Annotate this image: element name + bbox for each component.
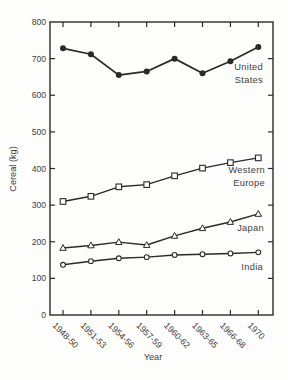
marker-western-europe [172,173,178,179]
y-tick-label: 100 [32,273,47,283]
marker-india [172,253,177,258]
series-label-line: Western [228,165,265,175]
marker-india [61,262,66,267]
marker-united-states [60,45,66,51]
marker-united-states [200,70,206,76]
y-tick-label: 800 [32,17,47,27]
marker-united-states [88,51,94,57]
marker-india [228,251,233,256]
y-axis-title: Cereal (kg) [8,146,18,191]
marker-united-states [227,58,233,64]
series-label-line: Europe [233,178,265,188]
y-tick-label: 400 [32,164,47,174]
marker-india [89,259,94,264]
marker-india [144,255,149,260]
marker-united-states [144,68,150,74]
marker-western-europe [88,194,94,200]
marker-united-states [255,44,261,50]
marker-western-europe [200,165,206,171]
series-label-line: India [241,262,263,272]
chart-svg: 01002003004005006007008001948-501951-531… [0,0,288,380]
y-tick-label: 0 [41,310,46,320]
marker-western-europe [256,155,262,161]
y-tick-label: 200 [32,237,47,247]
cereal-line-chart: 01002003004005006007008001948-501951-531… [0,0,288,380]
marker-western-europe [60,199,66,205]
series-label-line: United [234,62,263,72]
y-tick-label: 700 [32,54,47,64]
series-label-japan: Japan [237,223,264,233]
x-axis-title: Year [144,352,163,362]
marker-united-states [116,72,122,78]
marker-western-europe [144,182,150,188]
marker-western-europe [116,184,122,190]
y-tick-label: 500 [32,127,47,137]
marker-india [256,250,261,255]
marker-india [200,252,205,257]
y-tick-label: 300 [32,200,47,210]
series-label-line: Japan [237,223,264,233]
series-label-line: States [235,75,263,85]
cereal-consumption-figure: 01002003004005006007008001948-501951-531… [0,0,288,380]
series-label-india: India [241,262,263,272]
marker-india [116,256,121,261]
y-tick-label: 600 [32,90,47,100]
marker-united-states [172,56,178,62]
